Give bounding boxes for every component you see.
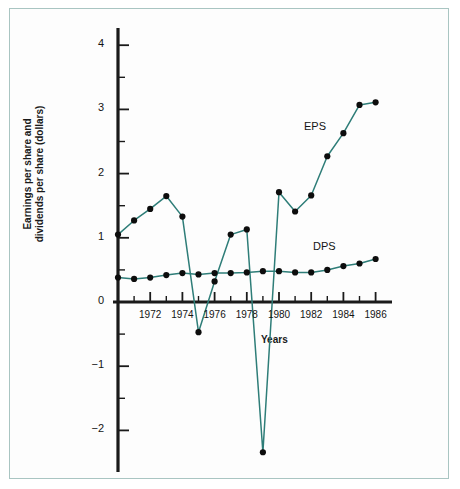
y-axis-tick-label: 2 [76, 166, 104, 178]
y-axis-tick-label: 4 [76, 37, 104, 49]
data-point-eps [276, 189, 282, 195]
data-point-dps [356, 260, 362, 266]
data-point-dps [115, 275, 121, 281]
data-point-eps [115, 231, 121, 237]
data-point-dps [212, 270, 218, 276]
data-point-eps [292, 208, 298, 214]
data-point-dps [179, 270, 185, 276]
y-axis-tick-label: −2 [76, 422, 104, 434]
data-point-dps [260, 268, 266, 274]
series-line-dps [118, 259, 376, 279]
y-axis-tick-label: 0 [76, 294, 104, 306]
x-axis-tick-label: 1986 [356, 309, 396, 320]
data-point-dps [292, 269, 298, 275]
data-point-dps [163, 272, 169, 278]
data-point-dps [244, 269, 250, 275]
data-point-eps [308, 192, 314, 198]
y-axis-tick-label: −1 [76, 358, 104, 370]
series-label-dps: DPS [313, 240, 336, 252]
y-axis-tick-label: 1 [76, 230, 104, 242]
data-point-eps [131, 217, 137, 223]
data-point-dps [195, 271, 201, 277]
data-point-eps [163, 193, 169, 199]
data-point-eps [260, 449, 266, 455]
data-point-dps [276, 268, 282, 274]
data-point-dps [147, 275, 153, 281]
data-point-eps [195, 329, 201, 335]
y-axis-tick-label: 3 [76, 101, 104, 113]
data-point-eps [244, 226, 250, 232]
data-point-eps [228, 231, 234, 237]
series-label-eps: EPS [304, 120, 326, 132]
data-point-eps [147, 206, 153, 212]
data-point-eps [324, 153, 330, 159]
data-point-eps [179, 214, 185, 220]
data-point-eps [373, 99, 379, 105]
data-point-dps [373, 256, 379, 262]
data-point-eps [340, 130, 346, 136]
data-point-dps [340, 263, 346, 269]
data-point-dps [131, 276, 137, 282]
data-point-eps [356, 102, 362, 108]
data-point-eps [212, 278, 218, 284]
data-point-dps [324, 267, 330, 273]
line-chart [0, 0, 460, 489]
data-point-dps [308, 269, 314, 275]
data-point-dps [228, 270, 234, 276]
